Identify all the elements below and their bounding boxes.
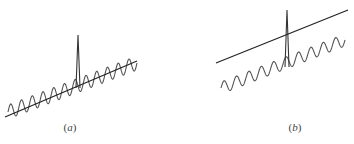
panel-label-a: (a)	[50, 120, 90, 134]
label-close-paren: )	[73, 121, 77, 133]
spike-a	[76, 35, 80, 88]
panel-label-b: (b)	[275, 120, 315, 134]
label-close-paren: )	[298, 121, 302, 133]
panel-a	[5, 35, 137, 117]
trend-line-b	[216, 10, 348, 63]
panel-b	[216, 10, 348, 90]
wave-curve-b	[221, 38, 345, 91]
trend-line-a	[5, 61, 137, 117]
spike-b	[285, 10, 289, 67]
